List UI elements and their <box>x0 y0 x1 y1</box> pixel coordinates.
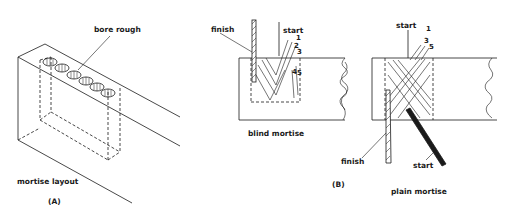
blind-mortise-caption: blind mortise <box>248 130 304 138</box>
bore-rough-label: bore rough <box>94 26 141 34</box>
plain-mortise-caption: plain mortise <box>391 188 447 196</box>
bore-holes <box>43 36 115 97</box>
plain-finish-label: finish <box>341 158 364 166</box>
plain-seq-1: 1 <box>426 26 431 33</box>
blind-finish-label: finish <box>211 26 234 34</box>
blind-seq-3: 3 <box>297 49 302 56</box>
woodworking-diagram: bore rough mortise layout (A) finish sta… <box>0 0 517 217</box>
blind-seq-1: 1 <box>296 35 301 42</box>
panel-a-tag: (A) <box>48 198 61 206</box>
plain-seq-5: 5 <box>429 44 434 51</box>
plain-start-bottom-label: start <box>413 162 433 170</box>
mortise-layout-caption: mortise layout <box>17 178 78 186</box>
plain-mortise-drawing <box>341 30 497 166</box>
blind-seq-5: 5 <box>297 70 302 77</box>
blind-mortise-drawing <box>220 20 347 120</box>
plain-start-top-label: start <box>396 22 416 30</box>
panel-b-tag: (B) <box>332 181 345 189</box>
